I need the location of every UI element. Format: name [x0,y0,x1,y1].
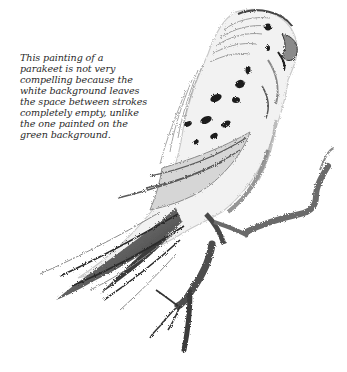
foot [150,290,180,338]
leg [206,214,224,244]
parakeet-illustration [0,0,347,372]
eye [265,24,272,31]
parakeet-body [78,10,297,278]
